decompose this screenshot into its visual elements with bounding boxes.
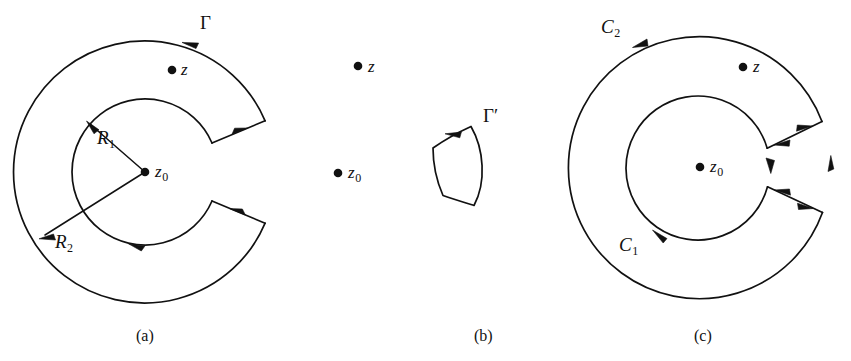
panel-c-inner-right-arrow bbox=[766, 158, 775, 174]
panel-a-point-dot bbox=[168, 66, 177, 75]
panel-b-caption: (b) bbox=[474, 327, 493, 345]
panel-b-center-label: z0 bbox=[348, 164, 361, 184]
panel-b-contour-arrow bbox=[445, 132, 461, 138]
panel-b-contour bbox=[433, 127, 482, 206]
panel-a-outer-arc bbox=[14, 41, 266, 303]
panel-c-outer-arrow bbox=[633, 39, 649, 48]
panel-a-center-label: z0 bbox=[155, 163, 168, 183]
panel-b-center-dot bbox=[334, 169, 343, 178]
panel-c-inner-circle-label: C1 bbox=[619, 235, 638, 257]
panel-c-outer-circle bbox=[568, 37, 822, 299]
panel-b-contour-label: Γ′ bbox=[483, 106, 498, 125]
panel-b-point-label: z bbox=[368, 58, 375, 75]
panel-a-radius2-arrow bbox=[39, 234, 56, 240]
panel-a-point-label: z bbox=[181, 61, 188, 78]
panel-c-center-dot bbox=[696, 163, 705, 172]
panel-c-outer-circle-label: C2 bbox=[601, 17, 620, 39]
panel-c-outer-right-arrow bbox=[828, 156, 834, 172]
panel-a-contour-label: Γ bbox=[200, 13, 211, 32]
panel-c-point-label: z bbox=[753, 58, 760, 75]
figure-drawing bbox=[0, 0, 851, 361]
panel-a-upper-slit-arrow bbox=[232, 128, 248, 134]
panel-a-center-dot bbox=[141, 168, 150, 177]
panel-c-center-label: z0 bbox=[710, 158, 723, 178]
panel-c-point-dot bbox=[739, 63, 748, 72]
figure-container: Γ z R1 R2 z0 (a) z z0 Γ′ (b) C2 z z0 C1 … bbox=[0, 0, 851, 361]
panel-a-caption: (a) bbox=[136, 327, 154, 345]
panel-c-graphics bbox=[568, 37, 833, 299]
panel-a-graphics bbox=[14, 41, 266, 303]
panel-b-point-dot bbox=[354, 62, 363, 71]
panel-a-radius-inner-label: R1 bbox=[97, 128, 115, 150]
panel-a-lower-slit-arrow bbox=[230, 209, 246, 215]
panel-a-radius-outer-label: R2 bbox=[55, 232, 73, 254]
panel-c-caption: (c) bbox=[694, 327, 712, 345]
panel-c-upper-cut bbox=[767, 122, 822, 149]
